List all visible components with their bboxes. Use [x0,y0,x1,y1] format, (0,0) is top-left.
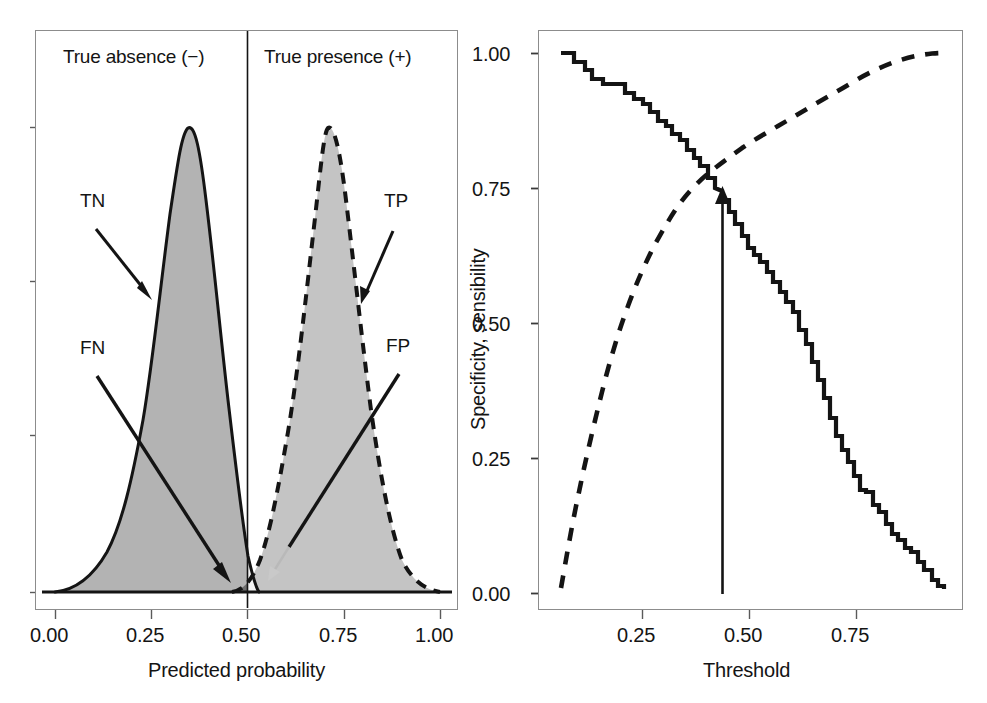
left-xtick-4: 1.00 [415,624,453,647]
left-panel-xaxis-title: Predicted probability [148,659,325,682]
right-xtick-1: 0.50 [724,624,762,647]
left-panel-title-presence: True presence (+) [264,46,411,68]
left-xtick-1: 0.25 [126,624,164,647]
tp-label: TP [384,190,408,212]
left-panel-frame [36,31,458,610]
right-panel-yaxis-ticks [531,54,538,594]
roc-explainer-figure: True absence (−) True presence (+) TN TP… [0,0,987,703]
tn-label: TN [80,190,105,212]
right-ytick-3: 0.75 [472,178,510,201]
right-panel-xaxis-title: Threshold [703,659,790,682]
left-panel-title-absence: True absence (−) [63,46,204,68]
left-xtick-0: 0.00 [30,624,68,647]
right-panel-xaxis-ticks [643,610,857,619]
right-panel-yaxis-title: Specificity, sensibility [467,248,490,430]
left-xtick-3: 0.75 [319,624,357,647]
right-ytick-4: 1.00 [472,43,510,66]
fn-label: FN [80,337,105,359]
right-xtick-2: 0.75 [831,624,869,647]
right-panel-frame [539,31,963,610]
left-panel-xaxis-ticks [56,610,441,619]
left-xtick-2: 0.50 [222,624,260,647]
fp-label: FP [386,335,410,357]
right-ytick-0: 0.00 [472,583,510,606]
right-ytick-1: 0.25 [472,448,510,471]
right-xtick-0: 0.25 [617,624,655,647]
